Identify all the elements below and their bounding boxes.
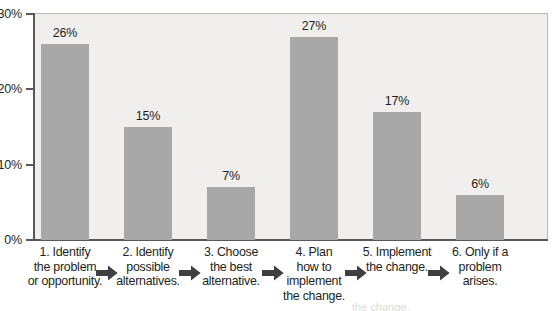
y-axis-tick-label: 10% bbox=[0, 159, 22, 172]
bar bbox=[41, 44, 89, 240]
bar-chart-figure: 0%10%20%30% 26%15%7%27%17%6% 1. Identify… bbox=[0, 0, 558, 311]
bar-value-label: 26% bbox=[41, 27, 89, 40]
x-axis-label-line: 5. Implement bbox=[349, 245, 445, 260]
y-axis-tick-mark bbox=[26, 239, 34, 241]
x-axis-label-line: 4. Plan bbox=[266, 245, 362, 260]
y-axis-tick-label: 30% bbox=[0, 8, 22, 21]
arrow-right-icon bbox=[96, 265, 118, 281]
bar bbox=[456, 195, 504, 240]
x-axis-label-line: 1. Identify bbox=[17, 245, 113, 260]
bar bbox=[290, 37, 338, 240]
bar bbox=[207, 187, 255, 240]
x-axis-label-line: 6. Only if a bbox=[432, 245, 528, 260]
bar-value-label: 15% bbox=[124, 110, 172, 123]
arrow-right-icon bbox=[262, 265, 284, 281]
bar-value-label: 6% bbox=[456, 178, 504, 191]
bar-value-label: 27% bbox=[290, 20, 338, 33]
y-axis-line bbox=[33, 13, 35, 241]
y-axis-tick-label: 20% bbox=[0, 83, 22, 96]
arrow-right-icon bbox=[179, 265, 201, 281]
y-axis-tick-mark bbox=[26, 164, 34, 166]
bar-value-label: 7% bbox=[207, 170, 255, 183]
bar bbox=[373, 112, 421, 240]
arrow-right-icon bbox=[428, 265, 450, 281]
bar bbox=[124, 127, 172, 240]
page-bleed-text: the change. bbox=[0, 301, 558, 311]
y-axis-tick-mark bbox=[26, 88, 34, 90]
bar-value-label: 17% bbox=[373, 95, 421, 108]
x-axis-category-labels: 1. Identifythe problemor opportunity.2. … bbox=[33, 245, 548, 307]
y-axis-tick-mark bbox=[26, 13, 34, 15]
x-axis-label-line: 3. Choose bbox=[183, 245, 279, 260]
arrow-right-icon bbox=[345, 265, 367, 281]
x-axis-label-line: 2. Identify bbox=[100, 245, 196, 260]
